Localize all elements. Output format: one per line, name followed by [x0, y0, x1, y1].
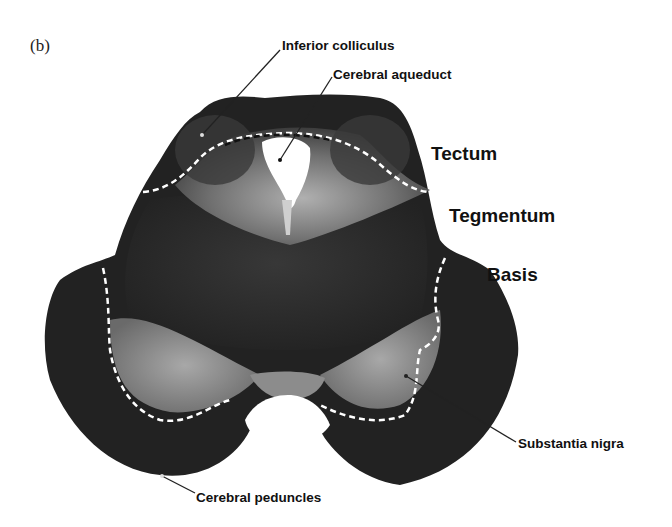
label-cerebral-peduncles: Cerebral peduncles [196, 490, 321, 505]
label-substantia-nigra: Substantia nigra [518, 436, 624, 451]
label-tectum: Tectum [431, 143, 497, 165]
inferior-colliculus-right [330, 115, 410, 185]
label-inferior-colliculus: Inferior colliculus [282, 38, 395, 53]
panel-label: (b) [30, 36, 50, 56]
inferior-colliculus-left [175, 115, 255, 185]
label-basis: Basis [487, 264, 538, 286]
label-tegmentum: Tegmentum [449, 205, 555, 227]
leader-cerebral-peduncles [162, 476, 195, 493]
midbrain-figure: (b) Inferior colliculus Cerebral aqueduc… [0, 0, 672, 527]
label-cerebral-aqueduct: Cerebral aqueduct [333, 67, 452, 82]
